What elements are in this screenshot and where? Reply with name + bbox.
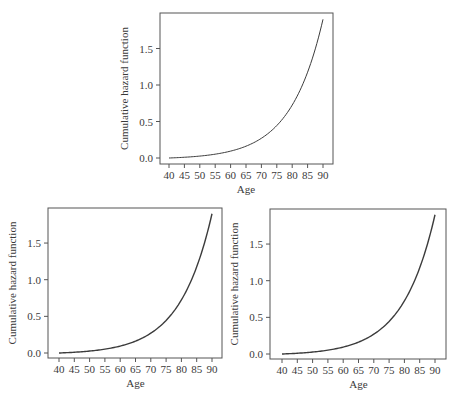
y-tick-label: 1.0 (139, 79, 153, 91)
plot-frame (270, 209, 446, 359)
x-tick-label: 45 (179, 169, 191, 181)
x-tick-label: 60 (225, 169, 237, 181)
x-tick-label: 55 (99, 363, 111, 375)
y-tick-label: 1.5 (249, 238, 263, 250)
plot-frame (160, 13, 333, 164)
x-axis-label: Age (126, 377, 144, 389)
x-tick-label: 60 (338, 364, 350, 376)
y-tick-label: 0.5 (249, 311, 263, 323)
chart-panel-bottom-left: 4045505560657075808590Age0.00.51.01.5Cum… (6, 208, 222, 389)
x-tick-label: 85 (191, 363, 203, 375)
x-tick-label: 60 (115, 363, 127, 375)
y-axis: 0.00.51.01.5Cumulative hazard function (118, 27, 160, 164)
y-axis: 0.00.51.01.5Cumulative hazard function (6, 221, 48, 359)
x-tick-label: 85 (414, 364, 426, 376)
x-tick-label: 80 (287, 169, 299, 181)
x-tick-label: 75 (384, 364, 396, 376)
y-axis-label: Cumulative hazard function (118, 27, 130, 150)
hazard-curve (59, 214, 212, 353)
x-tick-label: 75 (161, 363, 173, 375)
x-tick-label: 75 (271, 169, 283, 181)
hazard-curve (282, 215, 435, 354)
x-tick-label: 90 (318, 169, 330, 181)
x-tick-label: 45 (292, 364, 304, 376)
x-tick-label: 70 (256, 169, 268, 181)
x-axis: 4045505560657075808590Age (164, 164, 330, 195)
chart-panel-top: 4045505560657075808590Age0.00.51.01.5Cum… (118, 13, 333, 195)
x-tick-label: 80 (176, 363, 188, 375)
y-tick-label: 1.5 (27, 237, 41, 249)
y-tick-label: 1.0 (27, 274, 41, 286)
plot-frame (48, 208, 222, 358)
hazard-curve (169, 19, 323, 158)
x-tick-label: 65 (130, 363, 142, 375)
x-axis: 4045505560657075808590Age (277, 359, 442, 390)
x-tick-label: 55 (210, 169, 222, 181)
x-tick-label: 90 (207, 363, 219, 375)
y-axis: 0.00.51.01.5Cumulative hazard function (228, 222, 270, 360)
x-tick-label: 65 (241, 169, 253, 181)
y-tick-label: 1.0 (249, 275, 263, 287)
x-tick-label: 80 (399, 364, 411, 376)
x-tick-label: 55 (322, 364, 334, 376)
x-tick-label: 50 (307, 364, 319, 376)
x-tick-label: 50 (84, 363, 96, 375)
x-tick-label: 40 (164, 169, 176, 181)
x-tick-label: 45 (69, 363, 81, 375)
y-tick-label: 0.0 (139, 152, 153, 164)
x-axis-label: Age (237, 183, 255, 195)
y-tick-label: 0.0 (27, 347, 41, 359)
x-tick-label: 50 (194, 169, 206, 181)
y-axis-label: Cumulative hazard function (6, 221, 18, 344)
y-tick-label: 0.5 (27, 310, 41, 322)
y-tick-label: 0.5 (139, 116, 153, 128)
x-tick-label: 85 (302, 169, 314, 181)
x-tick-label: 70 (145, 363, 157, 375)
x-tick-label: 40 (277, 364, 289, 376)
x-tick-label: 70 (368, 364, 380, 376)
chart-panel-bottom-right: 4045505560657075808590Age0.00.51.01.5Cum… (228, 209, 446, 390)
x-tick-label: 90 (430, 364, 442, 376)
x-tick-label: 65 (353, 364, 365, 376)
x-tick-label: 40 (54, 363, 66, 375)
x-axis: 4045505560657075808590Age (54, 358, 219, 389)
figure: 4045505560657075808590Age0.00.51.01.5Cum… (0, 0, 455, 397)
y-tick-label: 0.0 (249, 348, 263, 360)
y-tick-label: 1.5 (139, 43, 153, 55)
x-axis-label: Age (349, 378, 367, 390)
y-axis-label: Cumulative hazard function (228, 222, 240, 345)
